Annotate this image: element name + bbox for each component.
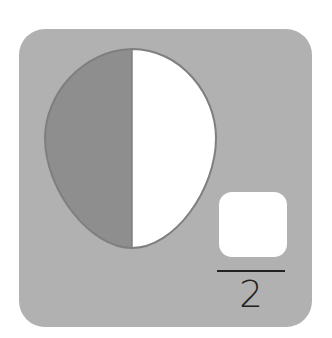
fraction-bar [217,270,285,272]
unshaded-half [132,49,216,248]
numerator-answer-box[interactable] [219,192,287,257]
shaded-half [45,49,132,248]
denominator: 2 [217,276,285,314]
